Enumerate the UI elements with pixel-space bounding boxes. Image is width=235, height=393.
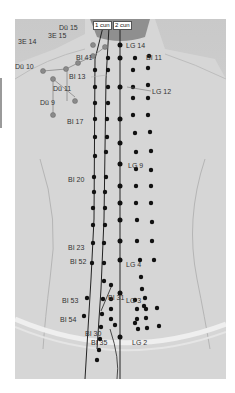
- measure-label-2-cun: 2 cun: [113, 21, 132, 30]
- point-label-due-15: Dü 15: [59, 24, 78, 32]
- point-label-lg-9: LG 9: [128, 162, 143, 170]
- point-label-bl-23: BI 23: [68, 244, 84, 252]
- point-label-lg-4: LG 4: [126, 261, 141, 269]
- point-label-bl-11: BI 11: [146, 54, 162, 62]
- point-label-bl-52: BI 52: [70, 258, 86, 266]
- point-label-bl-53: BI 53: [62, 297, 78, 305]
- measure-label-1-cun: 1 cun: [93, 21, 112, 30]
- point-label-due-11: Dü 11: [53, 85, 71, 93]
- point-label-lg-12: LG 12: [152, 88, 171, 96]
- point-label-due-9: Dü 9: [40, 99, 55, 107]
- acupuncture-diagram: [15, 19, 226, 379]
- point-label-3e-14: 3E 14: [18, 38, 36, 46]
- sidebar-tab: [0, 78, 2, 128]
- point-label-bl-13: BI 13: [69, 73, 85, 81]
- point-label-lg-14: LG 14: [126, 42, 145, 50]
- point-label-lg-3: LG 3: [126, 297, 141, 305]
- point-label-bl-54: BI 54: [60, 316, 76, 324]
- point-label-bl-20: BI 20: [68, 176, 84, 184]
- point-label-bl-31: BI 31: [108, 294, 124, 302]
- point-label-bl-17: BI 17: [67, 118, 83, 126]
- point-label-bl-41: BI 41: [76, 54, 92, 62]
- point-label-3e-15: 3E 15: [48, 32, 66, 40]
- point-label-due-10: Dü 10: [15, 63, 34, 71]
- point-label-bl-30: BI 30: [85, 330, 101, 338]
- point-label-bl-35: BI 35: [91, 339, 107, 347]
- back-photo: 1 cun 2 cun Dü 15 3E 15 3E 14 Dü 10 Dü 1…: [15, 19, 226, 379]
- point-label-lg-2: LG 2: [132, 339, 147, 347]
